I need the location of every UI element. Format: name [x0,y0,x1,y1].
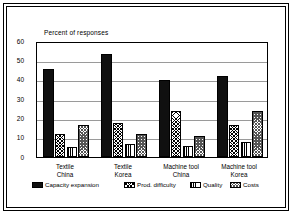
x-tick-label: TextileChina [36,163,94,178]
legend-swatch-icon [32,182,43,188]
plot-area [36,42,268,158]
y-tick-label: 60 [4,39,24,46]
bar [252,111,263,157]
chart-container: Percent of responses 0102030405060 Texti… [0,0,294,216]
x-tick-label: TextileKorea [94,163,152,178]
bar [136,134,147,157]
bar [67,147,78,157]
y-tick-label: 10 [4,135,24,142]
bar [171,111,182,157]
legend-swatch-icon [230,182,241,188]
legend-item[interactable]: Quality [190,181,222,188]
legend-label: Quality [203,181,222,188]
bar [113,123,124,157]
y-tick-label: 50 [4,58,24,65]
legend-item[interactable]: Capacity expansion [32,181,99,188]
legend-swatch-icon [190,182,201,188]
bar-series-container [37,43,267,157]
y-tick-label: 20 [4,116,24,123]
chart-legend: Capacity expansionProd. difficultyQualit… [32,180,268,192]
legend-label: Prod. difficulty [137,181,176,188]
bar [217,76,228,157]
legend-label: Costs [243,181,259,188]
y-tick-label: 40 [4,77,24,84]
bar [159,80,170,157]
legend-item[interactable]: Prod. difficulty [124,181,176,188]
bar [43,69,54,157]
bar [194,136,205,157]
bar [125,144,136,157]
y-tick-label: 0 [4,155,24,162]
legend-item[interactable]: Costs [230,181,259,188]
y-tick-label: 30 [4,97,24,104]
bar [229,125,240,157]
bar [55,134,66,157]
bar [241,142,252,157]
legend-swatch-icon [124,182,135,188]
bar [101,54,112,157]
x-tick-label: Machine toolKorea [210,163,268,178]
x-tick-label: Machine toolChina [152,163,210,178]
legend-label: Capacity expansion [45,181,99,188]
bar [183,146,194,157]
bar [78,125,89,157]
